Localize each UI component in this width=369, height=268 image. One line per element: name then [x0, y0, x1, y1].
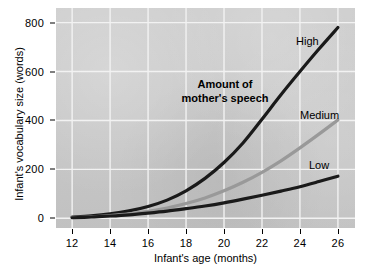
y-tick-mark — [50, 218, 55, 219]
vocabulary-growth-chart: 0200400600800 1214161820222426 Infant's … — [0, 0, 369, 268]
x-tick-mark — [224, 229, 225, 234]
x-tick-label: 16 — [133, 238, 163, 249]
y-tick-mark — [50, 169, 55, 170]
series-line-medium — [72, 120, 338, 218]
x-tick-label: 20 — [209, 238, 239, 249]
chart-annotation: Amount of mother's speech — [166, 78, 284, 106]
x-tick-mark — [72, 229, 73, 234]
x-tick-label: 26 — [323, 238, 353, 249]
series-label-high: High — [296, 36, 319, 47]
x-axis-title: Infant's age (months) — [56, 252, 355, 264]
x-tick-mark — [148, 229, 149, 234]
y-tick-mark — [50, 120, 55, 121]
series-label-low: Low — [309, 160, 329, 171]
x-tick-label: 14 — [95, 238, 125, 249]
x-tick-mark — [186, 229, 187, 234]
y-tick-mark — [50, 71, 55, 72]
y-axis-title: Infant's vocabulary size (words) — [13, 19, 25, 229]
y-tick-mark — [50, 22, 55, 23]
x-tick-label: 24 — [285, 238, 315, 249]
x-tick-mark — [110, 229, 111, 234]
x-tick-label: 12 — [57, 238, 87, 249]
x-tick-mark — [300, 229, 301, 234]
x-tick-mark — [262, 229, 263, 234]
x-tick-mark — [338, 229, 339, 234]
x-tick-label: 18 — [171, 238, 201, 249]
series-label-medium: Medium — [300, 110, 339, 121]
x-tick-label: 22 — [247, 238, 277, 249]
